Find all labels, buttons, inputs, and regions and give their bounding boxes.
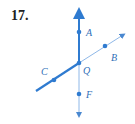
geometry-diagram: A B C Q F	[0, 0, 135, 124]
point-f	[77, 92, 82, 97]
label-f: F	[85, 89, 93, 100]
point-b	[103, 44, 108, 49]
label-b: B	[111, 52, 117, 63]
label-q: Q	[83, 65, 91, 76]
label-a: A	[85, 27, 93, 38]
point-a	[77, 30, 82, 35]
point-q	[77, 61, 82, 66]
point-c	[52, 78, 57, 83]
label-c: C	[41, 66, 48, 77]
